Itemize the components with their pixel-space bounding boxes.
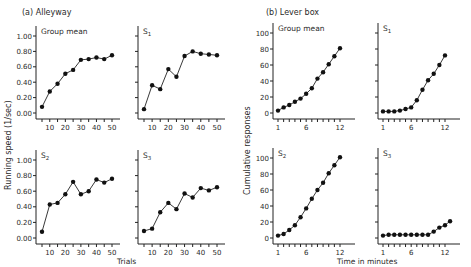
data-point [150,83,154,87]
data-point [310,197,314,201]
data-point [215,185,219,189]
data-point [142,229,146,233]
data-point [79,192,83,196]
x-tick-label: 6 [304,124,309,132]
data-point [48,89,52,93]
data-point [392,233,396,237]
data-point [174,75,178,79]
data-point [190,49,194,53]
x-tick-label: 40 [196,249,205,257]
x-tick-label: 50 [213,249,222,257]
data-point [166,201,170,205]
x-tick-label: 6 [304,249,309,257]
data-point [71,180,75,184]
data-point [215,53,219,57]
panel-5: 1612S1 [375,23,460,132]
x-tick-label: 12 [441,124,450,132]
data-point [298,215,302,219]
x-tick-label: 20 [164,249,173,257]
data-point [426,78,430,82]
y-tick-label: 0 [265,235,269,243]
panel-title: S1 [383,24,391,34]
data-point [158,210,162,214]
data-point [199,186,203,190]
data-line [383,55,445,111]
data-point [190,195,194,199]
data-point [332,163,336,167]
data-point [158,87,162,91]
data-point [338,155,342,159]
data-point [94,55,98,59]
figure: (a) Alleyway (b) Lever box Running speed… [0,0,471,267]
panel-title: S2 [278,149,286,159]
data-point [79,58,83,62]
data-point [63,192,67,196]
data-point [386,233,390,237]
data-point [293,223,297,227]
data-point [182,54,186,58]
y-tick-label: 0.60 [16,63,32,71]
x-tick-label: 1 [381,124,385,132]
x-tick-label: 40 [196,124,205,132]
data-point [437,225,441,229]
data-point [420,233,424,237]
x-tick-label: 6 [409,124,414,132]
panel-title: S3 [383,149,392,159]
data-point [338,46,342,50]
data-point [293,100,297,104]
x-tick-label: 20 [61,249,70,257]
data-point [443,53,447,57]
data-point [110,53,114,57]
panel-title: S3 [143,151,152,161]
x-tick-label: 40 [92,249,101,257]
y-tick-label: 0.40 [16,203,32,211]
panel-1: 1020304050S1 [135,26,225,132]
data-line [278,157,340,235]
panel-4: 0204060801001612Group mean [256,23,355,132]
data-point [40,230,44,234]
y-tick-label: 0.20 [16,94,32,102]
data-point [381,109,385,113]
data-point [55,201,59,205]
b-xlabel: Time in minutes [336,257,397,266]
panel-2: 0.000.200.400.600.801.001020304050S2 [16,150,120,257]
y-tick-label: 60 [260,187,269,195]
y-tick-label: 20 [260,219,269,227]
data-point [281,232,285,236]
data-point [448,219,452,223]
y-tick-label: 100 [256,155,269,163]
data-point [398,233,402,237]
a-xlabel: Trials [116,257,136,266]
data-point [281,105,285,109]
data-point [207,188,211,192]
x-tick-label: 40 [92,124,101,132]
data-point [327,62,331,66]
y-tick-label: 1.00 [16,33,32,41]
data-point [287,228,291,232]
data-point [150,226,154,230]
panel-0: 0.000.200.400.600.801.001020304050Group … [16,26,120,132]
panel-a-title: (a) Alleyway [22,8,72,17]
x-tick-label: 30 [180,124,189,132]
data-point [276,108,280,112]
x-tick-label: 30 [76,249,85,257]
y-tick-label: 80 [260,46,269,54]
data-point [102,180,106,184]
data-point [102,57,106,61]
data-point [415,98,419,102]
y-tick-label: 0.00 [16,235,32,243]
panel-3: 1020304050S3 [135,150,225,257]
data-point [55,82,59,86]
y-tick-label: 20 [260,94,269,102]
x-tick-label: 10 [148,249,157,257]
y-tick-label: 0.00 [16,110,32,118]
data-point [420,88,424,92]
y-tick-label: 0.80 [16,48,32,56]
panel-title: S1 [143,27,151,37]
x-tick-label: 20 [164,124,173,132]
x-tick-label: 50 [108,124,117,132]
x-tick-label: 30 [180,249,189,257]
data-point [71,68,75,72]
data-point [166,67,170,71]
y-tick-label: 40 [260,203,269,211]
